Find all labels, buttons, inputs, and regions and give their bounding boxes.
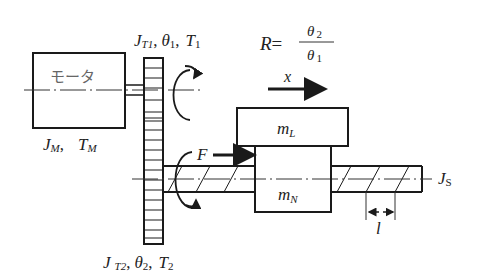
- displacement-label: x: [283, 68, 291, 85]
- load-mass: mL: [237, 108, 348, 146]
- rotation-arrow-2-icon: [176, 152, 193, 208]
- drive-diagram: モータ: [0, 0, 481, 280]
- gear2-label: JT2,θ2,T2: [103, 253, 174, 272]
- lead-label: l: [376, 219, 381, 238]
- gear1-label: JT1,θ1,T1: [134, 31, 201, 50]
- rotation-arrow-2-head-icon: [186, 200, 196, 206]
- svg-text:θ1: θ1: [307, 47, 322, 64]
- ratio-formula: R= θ2 θ1: [259, 23, 334, 64]
- screw-inertia-label: JS: [438, 169, 452, 188]
- rotation-arrow-1-head-icon: [185, 66, 196, 78]
- svg-text:R=: R=: [259, 33, 282, 54]
- force-label: F: [196, 145, 208, 164]
- svg-text:mN: mN: [278, 185, 298, 205]
- gear-stack: [144, 58, 163, 244]
- rotation-arrow-1-icon: [174, 70, 191, 120]
- motor-label: モータ: [50, 68, 95, 86]
- lead-dimension: l: [366, 192, 395, 238]
- svg-text:θ2: θ2: [307, 23, 322, 40]
- motor-params-label: JM,TM: [43, 135, 97, 154]
